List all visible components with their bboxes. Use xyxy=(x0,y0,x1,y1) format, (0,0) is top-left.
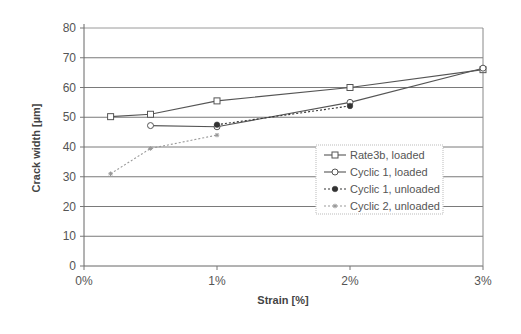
square-marker xyxy=(108,114,114,120)
x-tick-label: 0% xyxy=(75,274,93,288)
legend-label: Cyclic 1, unloaded xyxy=(350,183,440,195)
series-cyclic-1-loaded xyxy=(148,65,487,130)
series-line xyxy=(111,70,483,117)
y-tick-label: 20 xyxy=(63,200,77,214)
legend-label: Rate3b, loaded xyxy=(350,149,425,161)
series-line xyxy=(111,135,217,174)
x-tick-label: 2% xyxy=(341,274,359,288)
x-tick-label: 1% xyxy=(208,274,226,288)
legend: Rate3b, loadedCyclic 1, loadedCyclic 1, … xyxy=(316,145,443,214)
y-tick-label: 10 xyxy=(63,229,77,243)
circle-marker xyxy=(148,123,154,129)
square-marker xyxy=(332,152,338,158)
filled-circle-marker xyxy=(332,186,338,192)
filled-circle-marker xyxy=(214,122,220,128)
y-tick-label: 50 xyxy=(63,110,77,124)
y-tick-label: 80 xyxy=(63,21,77,35)
x-axis-ticks: 0%1%2%3% xyxy=(75,266,492,288)
y-tick-label: 0 xyxy=(69,259,76,273)
legend-label: Cyclic 2, unloaded xyxy=(350,200,440,212)
star-marker xyxy=(148,146,152,150)
square-marker xyxy=(214,98,220,104)
y-axis-ticks: 01020304050607080 xyxy=(63,21,84,273)
series-cyclic-2-unloaded xyxy=(108,133,219,176)
y-tick-label: 60 xyxy=(63,81,77,95)
series-line xyxy=(217,106,350,125)
star-marker xyxy=(333,204,337,208)
circle-marker xyxy=(480,65,486,71)
legend-label: Cyclic 1, loaded xyxy=(350,166,428,178)
y-tick-label: 40 xyxy=(63,140,77,154)
crack-width-chart: 01020304050607080 0%1%2%3% Strain [%] Cr… xyxy=(0,0,521,334)
y-tick-label: 70 xyxy=(63,51,77,65)
square-marker xyxy=(347,85,353,91)
square-marker xyxy=(148,111,154,117)
y-axis-title: Crack width [µm] xyxy=(30,103,42,192)
series-line xyxy=(151,68,484,127)
x-axis-title: Strain [%] xyxy=(257,294,309,306)
star-marker xyxy=(215,133,219,137)
star-marker xyxy=(108,172,112,176)
x-tick-label: 3% xyxy=(474,274,492,288)
filled-circle-marker xyxy=(347,103,353,109)
y-tick-label: 30 xyxy=(63,170,77,184)
circle-marker xyxy=(332,169,338,175)
